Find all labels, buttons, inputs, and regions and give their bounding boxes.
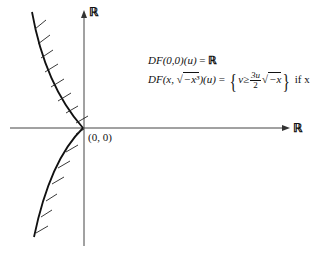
origin-label: (0, 0) (88, 131, 112, 143)
eq1-lhs: DF(0,0)(u) (148, 54, 197, 66)
eq1-equals: = (199, 54, 205, 66)
eq1-rhs: ℝ (208, 54, 217, 66)
upper-boundary-curve (32, 12, 83, 128)
lower-boundary-curve (34, 128, 83, 237)
diagram-graphics (0, 0, 310, 253)
eq2-lhs-sqrt: −x³ (183, 72, 200, 85)
eq2-rhs-sqrt: −x (268, 72, 281, 85)
eq2-equals: = (219, 73, 225, 85)
x-axis-arrow-icon (282, 125, 290, 131)
equation-line-2: DF(x, √−x³)(u) = {v≥3u2√−x} if x < 0 (148, 71, 310, 90)
lower-hatching (36, 129, 84, 233)
eq2-fraction: 3u2 (250, 71, 261, 90)
eq2-arg-open: (x, (163, 73, 177, 85)
y-axis-arrow-icon (81, 10, 87, 18)
eq2-arg-close: )(u) (199, 73, 216, 85)
y-axis-label: ℝ (89, 5, 99, 20)
eq2-geq: ≥ (243, 73, 249, 85)
diagram-canvas: ℝ ℝ (0, 0) DF(0,0)(u) = ℝ DF(x, √−x³)(u)… (0, 0, 310, 253)
eq2-brace-close: } (283, 76, 290, 86)
equation-line-1: DF(0,0)(u) = ℝ (148, 54, 217, 67)
upper-hatching (35, 20, 88, 123)
x-axis-label: ℝ (293, 121, 303, 136)
eq2-brace-open: { (229, 76, 236, 86)
eq2-condition: if x < 0 (295, 73, 310, 85)
eq2-func: DF (148, 73, 163, 85)
